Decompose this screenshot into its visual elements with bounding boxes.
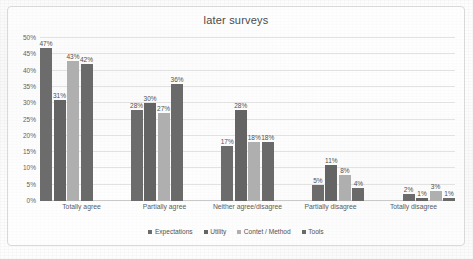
bar-slot: 30%: [144, 38, 156, 201]
bar-slot: 43%: [67, 38, 79, 201]
y-axis-tick-label: 15%: [23, 148, 36, 155]
bar-slot: 18%: [262, 38, 274, 201]
bar-value-label: 47%: [39, 40, 52, 47]
bar[interactable]: [339, 175, 351, 201]
bar[interactable]: [235, 110, 247, 201]
bar[interactable]: [312, 185, 324, 201]
bar[interactable]: [54, 100, 66, 201]
legend-label: Expectations: [155, 228, 193, 235]
bar[interactable]: [430, 191, 442, 201]
legend-swatch-icon: [204, 230, 208, 234]
y-axis-tick-label: 50%: [23, 34, 36, 41]
bar-slot: 11%: [325, 38, 337, 201]
category-label: Partially disagree: [289, 203, 372, 210]
bar-value-label: 17%: [221, 138, 234, 145]
bar-group: 28%30%27%36%: [131, 38, 184, 201]
legend-swatch-icon: [302, 230, 306, 234]
bar-value-label: 8%: [340, 167, 349, 174]
bar-slot: 4%: [352, 38, 364, 201]
chart-container: later surveys 0%5%10%15%20%25%30%35%40%4…: [7, 6, 465, 246]
legend-item[interactable]: Utility: [204, 228, 227, 235]
bar[interactable]: [81, 64, 93, 201]
bar[interactable]: [40, 48, 52, 201]
legend-swatch-icon: [148, 230, 152, 234]
bar[interactable]: [443, 198, 455, 201]
bar[interactable]: [67, 61, 79, 201]
plot-area: 0%5%10%15%20%25%30%35%40%45%50% 47%31%43…: [40, 38, 455, 201]
bar[interactable]: [221, 146, 233, 201]
chart-title: later surveys: [8, 14, 464, 26]
bar-slot: 17%: [221, 38, 233, 201]
y-axis-tick-label: 10%: [23, 164, 36, 171]
bar-slot: 3%: [430, 38, 442, 201]
bar[interactable]: [403, 194, 415, 201]
bar-slot: 27%: [158, 38, 170, 201]
y-axis-tick-label: 20%: [23, 131, 36, 138]
bar[interactable]: [158, 113, 170, 201]
bar[interactable]: [171, 84, 183, 201]
legend-item[interactable]: Expectations: [148, 228, 192, 235]
bar-slot: 42%: [81, 38, 93, 201]
y-axis-tick-label: 40%: [23, 66, 36, 73]
bar-value-label: 42%: [80, 56, 93, 63]
bar[interactable]: [131, 110, 143, 201]
bar-value-label: 36%: [171, 76, 184, 83]
y-axis-tick-label: 45%: [23, 50, 36, 57]
bar-slot: 1%: [416, 38, 428, 201]
legend-swatch-icon: [237, 230, 241, 234]
bar-value-label: 28%: [234, 102, 247, 109]
legend-label: Contet / Method: [244, 228, 291, 235]
bar[interactable]: [144, 103, 156, 201]
bar-group: 47%31%43%42%: [40, 38, 93, 201]
bar-value-label: 18%: [248, 134, 261, 141]
bar-slot: 36%: [171, 38, 183, 201]
y-axis-tick-label: 30%: [23, 99, 36, 106]
bar-group: 2%1%3%1%: [403, 38, 456, 201]
bar-value-label: 4%: [354, 180, 363, 187]
bar-slot: 8%: [339, 38, 351, 201]
legend-label: Utility: [210, 228, 226, 235]
category-label: Totally disagree: [372, 203, 455, 210]
bar-slot: 2%: [403, 38, 415, 201]
bar[interactable]: [352, 188, 364, 201]
bar-value-label: 1%: [444, 190, 453, 197]
legend-item[interactable]: Tools: [302, 228, 324, 235]
bar-value-label: 31%: [53, 92, 66, 99]
category-label: Totally agree: [40, 203, 123, 210]
bar[interactable]: [248, 142, 260, 201]
category-label: Partially agree: [123, 203, 206, 210]
bar-value-label: 27%: [157, 105, 170, 112]
bar[interactable]: [262, 142, 274, 201]
bar-value-label: 30%: [144, 95, 157, 102]
bar-value-label: 28%: [130, 102, 143, 109]
bar-value-label: 5%: [313, 177, 322, 184]
y-axis-tick-label: 25%: [23, 115, 36, 122]
bar-slot: 18%: [248, 38, 260, 201]
category-axis: Totally agreePartially agreeNeither agre…: [40, 203, 455, 210]
bar-value-label: 18%: [261, 134, 274, 141]
bar-value-label: 1%: [417, 190, 426, 197]
bar-value-label: 43%: [66, 53, 79, 60]
bar-value-label: 3%: [431, 183, 440, 190]
y-axis-tick-label: 35%: [23, 82, 36, 89]
bar-slot: 31%: [54, 38, 66, 201]
y-axis-tick-label: 0%: [27, 197, 36, 204]
bar-slot: 47%: [40, 38, 52, 201]
legend-label: Tools: [308, 228, 323, 235]
bar-group: 5%11%8%4%: [312, 38, 365, 201]
bar-slot: 28%: [131, 38, 143, 201]
category-label: Neither agree/disagree: [206, 203, 289, 210]
bar-value-label: 2%: [404, 186, 413, 193]
bar-groups: 47%31%43%42%28%30%27%36%17%28%18%18%5%11…: [40, 38, 455, 201]
bar-group: 17%28%18%18%: [221, 38, 274, 201]
y-axis-tick-label: 5%: [27, 180, 36, 187]
bar-slot: 5%: [312, 38, 324, 201]
legend-item[interactable]: Contet / Method: [237, 228, 290, 235]
bar[interactable]: [416, 198, 428, 201]
bar-slot: 28%: [235, 38, 247, 201]
bar[interactable]: [325, 165, 337, 201]
bar-value-label: 11%: [325, 157, 338, 164]
chart-legend: ExpectationsUtilityContet / MethodTools: [8, 228, 464, 235]
bar-slot: 1%: [443, 38, 455, 201]
